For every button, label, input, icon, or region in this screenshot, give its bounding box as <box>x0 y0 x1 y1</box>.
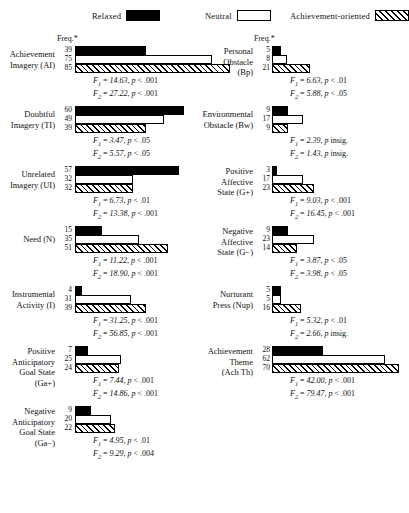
freq-header-right: Freq.* <box>254 34 275 43</box>
bar-value-label: 9 <box>256 105 270 114</box>
bar-neutral <box>272 55 287 64</box>
legend-label-achievement-oriented: Achievement-oriented <box>290 11 370 21</box>
bar-relaxed <box>75 286 82 295</box>
bar-row: 32 <box>0 184 198 193</box>
bar-row: 62 <box>198 355 397 364</box>
bar-row: 9 <box>0 406 198 415</box>
stats-positive-anticipatory-goal-state: F1 = 7.44, p < .001F2 = 14.86, p < .001 <box>93 376 158 402</box>
stat-line: F2 = 5.88, p < .05 <box>290 89 347 102</box>
stat-line: F2 = 3.98, p < .05 <box>290 269 347 282</box>
legend-item-achievement-oriented: Achievement-oriented <box>290 10 409 21</box>
stats-environmental-obstacle: F1 = 2.39, p insig.F2 = 1.43, p insig. <box>290 136 348 162</box>
bar-value-label: 70 <box>256 363 270 372</box>
bar-value-label: 16 <box>256 303 270 312</box>
bar-group-positive-affective-state: 31723 <box>198 166 397 193</box>
bar-row: 22 <box>0 424 198 433</box>
bar-row: 7 <box>0 346 198 355</box>
bar-group-unrelated-imagery: 573232 <box>0 166 198 193</box>
bar-group-personal-obstacle: 5821 <box>198 46 397 73</box>
bar-row: 32 <box>0 175 198 184</box>
bar-relaxed <box>75 46 146 55</box>
stats-doubtful-imagery: F1 = 3.47, p < .05F2 = 5.57, p < .05 <box>93 136 150 162</box>
stat-line: F2 = 18.90, p < .001 <box>93 269 158 282</box>
stats-personal-obstacle: F1 = 6.63, p < .01F2 = 5.88, p < .05 <box>290 76 347 102</box>
stat-line: F1 = 4.95, p < .01 <box>93 436 154 449</box>
bar-achievement-oriented <box>75 124 146 133</box>
right-column: Freq.* PersonalObstacle(Bp)5821F1 = 6.63… <box>198 34 397 394</box>
bar-achievement-oriented <box>75 184 133 193</box>
bar-row: 28 <box>198 346 397 355</box>
bar-neutral <box>272 355 385 364</box>
bar-relaxed <box>272 346 323 355</box>
bar-row: 5 <box>198 295 397 304</box>
bar-value-label: 4 <box>58 285 72 294</box>
bar-value-label: 32 <box>58 183 72 192</box>
stat-line: F1 = 5.32, p < .01 <box>290 316 348 329</box>
legend-item-neutral: Neutral <box>205 10 271 21</box>
legend-label-relaxed: Relaxed <box>92 11 121 21</box>
stats-negative-anticipatory-goal-state: F1 = 4.95, p < .01F2 = 9.29, p < .004 <box>93 436 154 462</box>
bar-value-label: 7 <box>58 345 72 354</box>
bar-row: 14 <box>198 244 397 253</box>
bar-row: 8 <box>198 55 397 64</box>
bar-value-label: 35 <box>58 234 72 243</box>
bar-row: 3 <box>198 166 397 175</box>
bar-row: 31 <box>0 295 198 304</box>
legend-label-neutral: Neutral <box>205 11 232 21</box>
bar-value-label: 5 <box>256 45 270 54</box>
stats-instrumental-activity: F1 = 31.25, p < .001F2 = 56.85, p < .001 <box>93 316 158 342</box>
bar-value-label: 60 <box>58 105 72 114</box>
measure-block-doubtful-imagery: DoubtfulImagery (TI)604939F1 = 3.47, p <… <box>0 106 198 166</box>
bar-value-label: 15 <box>58 225 72 234</box>
stat-line: F1 = 7.44, p < .001 <box>93 376 158 389</box>
bar-row: 21 <box>198 64 397 73</box>
measure-block-unrelated-imagery: UnrelatedImagery (UI)573232F1 = 6.73, p … <box>0 166 198 226</box>
bar-row: 39 <box>0 304 198 313</box>
category-label-line: (Ga+) <box>12 378 55 389</box>
bar-value-label: 17 <box>256 174 270 183</box>
stat-line: F1 = 42.00, p < .001 <box>290 376 355 389</box>
bar-value-label: 5 <box>256 294 270 303</box>
bar-value-label: 75 <box>58 54 72 63</box>
bar-value-label: 9 <box>256 123 270 132</box>
stat-line: F1 = 3.87, p < .05 <box>290 256 347 269</box>
stats-achievement-theme: F1 = 42.00, p < .001F2 = 79.47, p < .001 <box>290 376 355 402</box>
measure-block-environmental-obstacle: EnvironmentalObstacle (Bw)9179F1 = 2.39,… <box>198 106 397 166</box>
bar-value-label: 9 <box>58 405 72 414</box>
measure-block-instrumental-activity: InstrumentalActivity (I)43139F1 = 31.25,… <box>0 286 198 346</box>
bar-achievement-oriented <box>272 184 314 193</box>
bar-row: 24 <box>0 364 198 373</box>
stat-line: F2 = 56.85, p < .001 <box>93 329 158 342</box>
bar-row: 23 <box>198 235 397 244</box>
bar-neutral <box>272 295 281 304</box>
bar-row: 16 <box>198 304 397 313</box>
bar-value-label: 31 <box>58 294 72 303</box>
bar-row: 15 <box>0 226 198 235</box>
bar-value-label: 5 <box>256 285 270 294</box>
bar-row: 49 <box>0 115 198 124</box>
bar-relaxed <box>75 226 102 235</box>
legend: Relaxed Neutral Achievement-oriented <box>0 8 397 30</box>
bar-group-negative-anticipatory-goal-state: 92022 <box>0 406 198 433</box>
stat-line: F1 = 3.47, p < .05 <box>93 136 150 149</box>
bar-relaxed <box>75 406 91 415</box>
stats-negative-affective-state: F1 = 3.87, p < .05F2 = 3.98, p < .05 <box>290 256 347 282</box>
bar-group-achievement-imagery: 397585 <box>0 46 198 73</box>
measure-block-negative-affective-state: NegativeAffectiveState (G−)92314F1 = 3.8… <box>198 226 397 286</box>
bar-neutral <box>75 415 111 424</box>
bar-row: 9 <box>198 226 397 235</box>
left-block-list: AchievementImagery (AI)397585F1 = 14.63,… <box>0 46 198 466</box>
bar-achievement-oriented <box>272 244 297 253</box>
bar-value-label: 23 <box>256 234 270 243</box>
bar-neutral <box>272 115 303 124</box>
bar-value-label: 23 <box>256 183 270 192</box>
stat-line: F1 = 14.63, p < .001 <box>93 76 158 89</box>
measure-block-positive-affective-state: PositiveAffectiveState (G+)31723F1 = 9.0… <box>198 166 397 226</box>
bar-achievement-oriented <box>75 304 146 313</box>
bar-row: 9 <box>198 124 397 133</box>
left-column: Freq.* AchievementImagery (AI)397585F1 =… <box>0 34 198 454</box>
bar-group-environmental-obstacle: 9179 <box>198 106 397 133</box>
bar-value-label: 32 <box>58 174 72 183</box>
bar-value-label: 21 <box>256 63 270 72</box>
